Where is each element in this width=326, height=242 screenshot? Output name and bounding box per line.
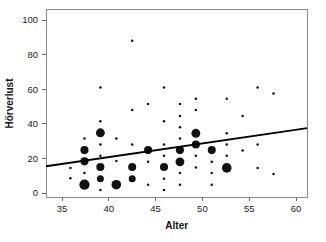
data-point-bubble bbox=[69, 177, 72, 180]
y-axis-ticks: 020406080100 bbox=[22, 14, 46, 198]
x-tick-label: 50 bbox=[197, 203, 208, 214]
x-axis-title: Alter bbox=[165, 220, 188, 231]
data-point-bubble bbox=[147, 103, 150, 106]
x-tick-label: 40 bbox=[104, 203, 115, 214]
y-tick-label: 40 bbox=[28, 118, 39, 129]
data-point-bubble bbox=[99, 143, 102, 146]
plot-frame bbox=[46, 10, 307, 198]
data-point-bubble bbox=[256, 143, 259, 146]
y-tick-label: 20 bbox=[28, 153, 39, 164]
data-point-bubble bbox=[241, 149, 244, 152]
data-point-bubble bbox=[115, 160, 118, 163]
data-point-bubble bbox=[272, 92, 275, 95]
data-point-bubble bbox=[129, 175, 136, 182]
y-tick-label: 80 bbox=[28, 49, 39, 60]
x-tick-label: 35 bbox=[57, 203, 68, 214]
y-tick-label: 60 bbox=[28, 84, 39, 95]
data-point-bubble bbox=[256, 167, 259, 170]
data-point-bubble bbox=[179, 103, 182, 106]
data-point-bubble bbox=[163, 143, 166, 146]
data-point-bubble bbox=[83, 172, 86, 175]
data-point-bubble bbox=[195, 97, 198, 100]
scatter-plot-figure: 020406080100 354045505560 Alter Hörverlu… bbox=[0, 0, 326, 242]
data-point-bubble bbox=[96, 163, 104, 171]
data-point-bubble bbox=[225, 155, 228, 158]
chart-canvas: 020406080100 354045505560 Alter Hörverlu… bbox=[0, 0, 326, 242]
y-axis-title: Hörverlust bbox=[4, 78, 15, 129]
data-point-bubble bbox=[131, 40, 134, 43]
data-point-bubble bbox=[97, 175, 104, 182]
data-point-bubble bbox=[163, 178, 166, 181]
data-point-bubble bbox=[211, 172, 214, 175]
data-point-bubble bbox=[179, 137, 182, 140]
y-tick-label: 0 bbox=[33, 187, 38, 198]
data-point-bubble bbox=[211, 161, 214, 164]
data-point-bubble bbox=[80, 146, 88, 154]
x-tick-label: 55 bbox=[244, 203, 255, 214]
data-point-bubble bbox=[272, 173, 275, 176]
data-point-bubble bbox=[99, 189, 102, 192]
data-point-bubble bbox=[179, 126, 182, 129]
data-point-bubble bbox=[195, 109, 198, 112]
data-point-bubble bbox=[256, 86, 259, 89]
data-point-bubble bbox=[147, 183, 150, 186]
data-point-bubble bbox=[225, 132, 228, 135]
data-point-bubble bbox=[79, 180, 89, 190]
data-point-bubble bbox=[99, 155, 102, 158]
data-point-bubble bbox=[96, 128, 105, 137]
data-point-bubble bbox=[191, 129, 200, 138]
data-point-bubble bbox=[179, 172, 182, 175]
data-point-bubble bbox=[195, 166, 198, 169]
data-points-layer bbox=[69, 40, 275, 192]
data-point-bubble bbox=[131, 143, 134, 146]
data-point-bubble bbox=[111, 180, 121, 190]
data-point-bubble bbox=[163, 155, 166, 158]
x-tick-label: 60 bbox=[291, 203, 302, 214]
data-point-bubble bbox=[241, 115, 244, 118]
data-point-bubble bbox=[69, 167, 72, 170]
x-tick-label: 45 bbox=[150, 203, 161, 214]
data-point-bubble bbox=[163, 86, 166, 89]
data-point-bubble bbox=[160, 163, 168, 171]
data-point-bubble bbox=[163, 120, 166, 123]
data-point-bubble bbox=[179, 183, 182, 186]
data-point-bubble bbox=[115, 137, 118, 140]
data-point-bubble bbox=[225, 97, 228, 100]
data-point-bubble bbox=[211, 183, 214, 186]
data-point-bubble bbox=[99, 120, 102, 123]
data-point-bubble bbox=[163, 189, 166, 192]
data-point-bubble bbox=[195, 155, 198, 158]
data-point-bubble bbox=[128, 163, 136, 171]
data-point-bubble bbox=[179, 115, 182, 118]
data-point-bubble bbox=[99, 86, 102, 89]
x-axis-ticks: 354045505560 bbox=[57, 197, 302, 214]
data-point-bubble bbox=[131, 109, 134, 112]
data-point-bubble bbox=[222, 163, 232, 173]
data-point-bubble bbox=[225, 143, 228, 146]
data-point-bubble bbox=[175, 157, 184, 166]
data-point-bubble bbox=[83, 137, 86, 140]
y-tick-label: 100 bbox=[22, 14, 38, 25]
data-point-bubble bbox=[208, 146, 216, 154]
data-point-bubble bbox=[147, 161, 150, 164]
plot-frame-group bbox=[46, 10, 307, 198]
